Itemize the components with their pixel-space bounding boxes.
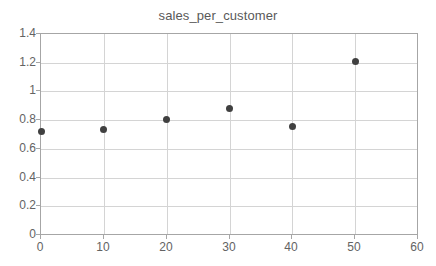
plot-area [40, 33, 418, 235]
data-point [38, 128, 45, 135]
chart-title: sales_per_customer [0, 8, 436, 23]
y-tick-label: 1.2 [2, 56, 36, 68]
gridline-vertical [104, 34, 105, 234]
data-point [163, 116, 170, 123]
x-tick-label: 10 [83, 241, 123, 253]
x-tick-mark [291, 235, 292, 239]
x-tick-label: 20 [146, 241, 186, 253]
y-tick-label: 1 [2, 84, 36, 96]
gridline-horizontal [41, 63, 417, 64]
gridline-vertical [292, 34, 293, 234]
data-point [100, 126, 107, 133]
x-tick-mark [103, 235, 104, 239]
x-tick-mark [40, 235, 41, 239]
y-tick-label: 0.8 [2, 113, 36, 125]
y-tick-label: 1.4 [2, 27, 36, 39]
gridline-horizontal [41, 178, 417, 179]
y-tick-mark [36, 62, 40, 63]
gridline-horizontal [41, 206, 417, 207]
y-tick-mark [36, 119, 40, 120]
gridline-horizontal [41, 149, 417, 150]
chart-container: sales_per_customer 00.20.40.60.811.21.4 … [0, 0, 436, 266]
y-tick-mark [36, 205, 40, 206]
x-axis-tick-labels: 0102030405060 [0, 241, 436, 261]
y-tick-mark [36, 148, 40, 149]
x-tick-label: 0 [20, 241, 60, 253]
y-tick-label: 0.2 [2, 199, 36, 211]
x-tick-label: 40 [271, 241, 311, 253]
y-tick-mark [36, 90, 40, 91]
y-tick-label: 0.6 [2, 142, 36, 154]
data-point [352, 58, 359, 65]
x-tick-label: 30 [209, 241, 249, 253]
y-tick-label: 0.4 [2, 171, 36, 183]
gridline-vertical [230, 34, 231, 234]
data-point [226, 105, 233, 112]
data-point [289, 123, 296, 130]
y-tick-label: 0 [2, 228, 36, 240]
x-tick-mark [229, 235, 230, 239]
y-axis-tick-labels: 00.20.40.60.811.21.4 [0, 0, 36, 266]
x-tick-mark [166, 235, 167, 239]
gridline-vertical [167, 34, 168, 234]
gridline-horizontal [41, 120, 417, 121]
gridline-horizontal [41, 91, 417, 92]
x-tick-mark [354, 235, 355, 239]
x-tick-label: 60 [397, 241, 436, 253]
y-tick-mark [36, 177, 40, 178]
x-tick-label: 50 [334, 241, 374, 253]
x-tick-mark [417, 235, 418, 239]
y-tick-mark [36, 33, 40, 34]
